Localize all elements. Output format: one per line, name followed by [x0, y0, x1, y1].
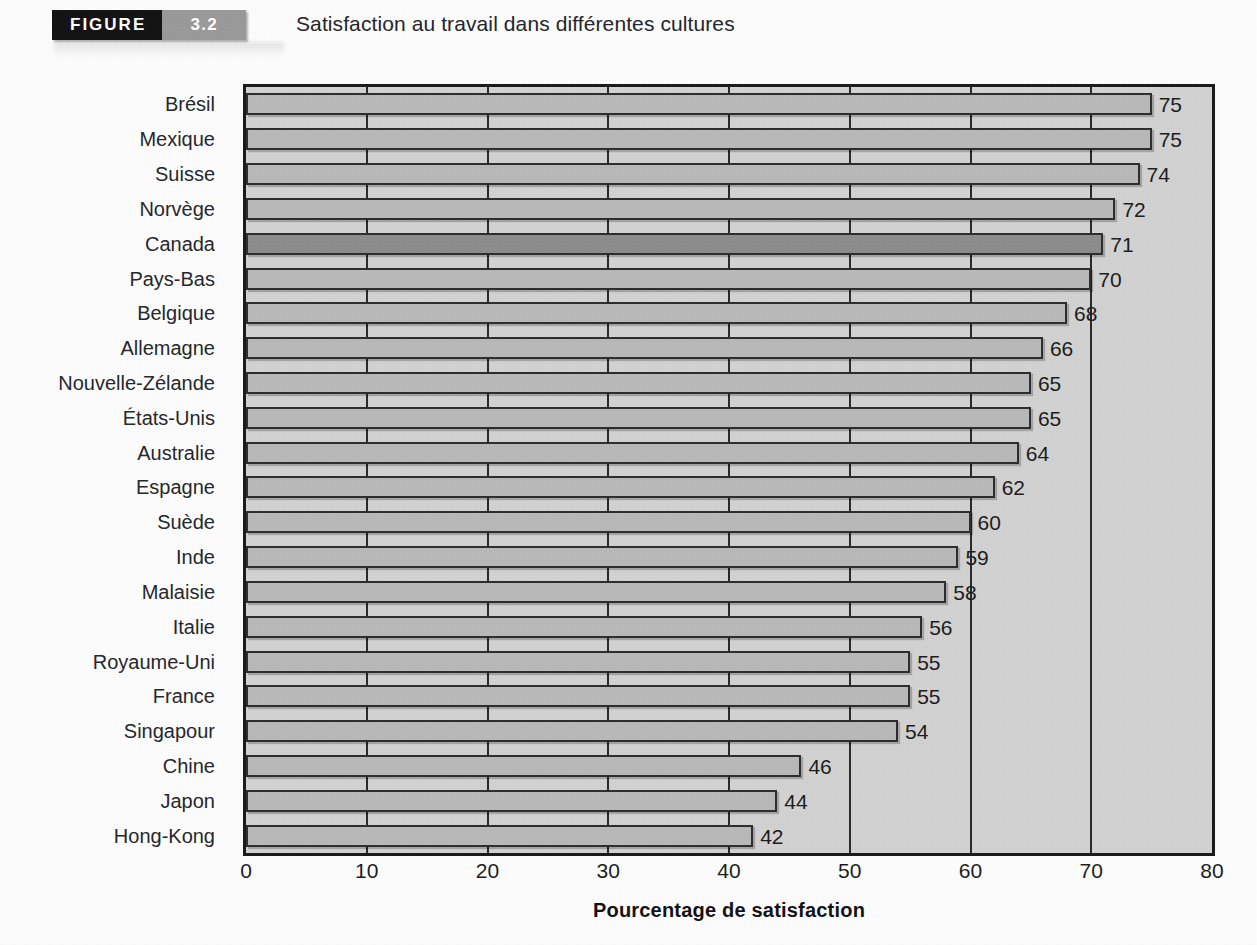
- bar-pays-bas: [246, 268, 1091, 290]
- bar-hong-kong: [246, 825, 753, 847]
- bar-row: 72: [246, 198, 1212, 220]
- bar-nouvelle-z-lande: [246, 372, 1031, 394]
- y-axis-label-hong-kong: Hong-Kong: [114, 826, 215, 846]
- bar-royaume-uni: [246, 651, 910, 673]
- bar-row: 58: [246, 581, 1212, 603]
- bar-mexique: [246, 128, 1152, 150]
- x-axis-tick-0: 0: [240, 860, 252, 881]
- bar-value-label: 65: [1038, 407, 1061, 428]
- x-axis-tick-70: 70: [1080, 860, 1103, 881]
- y-axis-label-royaume-uni: Royaume-Uni: [93, 652, 215, 672]
- bar-chart: 7575747271706866656564626059585655555446…: [243, 84, 1215, 856]
- bar-row: 70: [246, 268, 1212, 290]
- y-axis-label-singapour: Singapour: [124, 721, 215, 741]
- x-axis-tick-80: 80: [1200, 860, 1223, 881]
- bar-value-label: 62: [1002, 477, 1025, 498]
- bar-canada: [246, 233, 1103, 255]
- bar-allemagne: [246, 337, 1043, 359]
- figure-number-label: 3.2: [162, 10, 246, 40]
- bar-value-label: 59: [965, 547, 988, 568]
- y-axis-label-belgique: Belgique: [137, 303, 215, 323]
- bar-value-label: 72: [1122, 198, 1145, 219]
- y-axis-category-labels: BrésilMexiqueSuisseNorvègeCanadaPays-Bas…: [0, 84, 233, 856]
- x-axis-tick-20: 20: [476, 860, 499, 881]
- y-axis-label-australie: Australie: [137, 443, 215, 463]
- y-axis-label-chine: Chine: [163, 756, 215, 776]
- y-axis-label-france: France: [153, 686, 215, 706]
- bar-row: 55: [246, 651, 1212, 673]
- bar-row: 55: [246, 685, 1212, 707]
- bar-value-label: 75: [1159, 129, 1182, 150]
- x-axis-title: Pourcentage de satisfaction: [243, 899, 1215, 922]
- bar-row: 62: [246, 476, 1212, 498]
- bar-row: 71: [246, 233, 1212, 255]
- bar-norv-ge: [246, 198, 1115, 220]
- figure-word-label: FIGURE: [52, 10, 162, 40]
- y-axis-label-suisse: Suisse: [155, 164, 215, 184]
- bar-value-label: 70: [1098, 268, 1121, 289]
- bar-row: 59: [246, 546, 1212, 568]
- bar-value-label: 60: [978, 512, 1001, 533]
- bar-row: 68: [246, 302, 1212, 324]
- bar-row: 56: [246, 616, 1212, 638]
- figure-badge: FIGURE 3.2: [52, 10, 246, 40]
- bar-row: 65: [246, 407, 1212, 429]
- bar-malaisie: [246, 581, 946, 603]
- bar-row: 54: [246, 720, 1212, 742]
- bar-france: [246, 685, 910, 707]
- x-axis-tick-50: 50: [838, 860, 861, 881]
- bar-value-label: 71: [1110, 233, 1133, 254]
- bar-inde: [246, 546, 958, 568]
- y-axis-label-su-de: Suède: [157, 512, 215, 532]
- bar-su-de: [246, 511, 971, 533]
- y-axis-label-norv-ge: Norvège: [139, 199, 215, 219]
- bar-value-label: 58: [953, 581, 976, 602]
- bar-row: 60: [246, 511, 1212, 533]
- bar-australie: [246, 442, 1019, 464]
- y-axis-label-pays-bas: Pays-Bas: [129, 269, 215, 289]
- bar-value-label: 46: [808, 755, 831, 776]
- y-axis-label-italie: Italie: [173, 617, 215, 637]
- y-axis-label-nouvelle-z-lande: Nouvelle-Zélande: [58, 373, 215, 393]
- y-axis-label-malaisie: Malaisie: [142, 582, 215, 602]
- bar-chine: [246, 755, 801, 777]
- y-axis-label-allemagne: Allemagne: [120, 338, 215, 358]
- bar-row: 44: [246, 790, 1212, 812]
- bar-singapour: [246, 720, 898, 742]
- bar-japon: [246, 790, 777, 812]
- bar-value-label: 42: [760, 825, 783, 846]
- bar--tats-unis: [246, 407, 1031, 429]
- bar-value-label: 55: [917, 651, 940, 672]
- bar-value-label: 44: [784, 790, 807, 811]
- y-axis-label-br-sil: Brésil: [165, 94, 215, 114]
- badge-shadow: [54, 42, 284, 58]
- bar-value-label: 75: [1159, 94, 1182, 115]
- bar-suisse: [246, 163, 1140, 185]
- x-axis-tick-40: 40: [717, 860, 740, 881]
- x-axis-tick-30: 30: [597, 860, 620, 881]
- bar-value-label: 65: [1038, 372, 1061, 393]
- bar-value-label: 54: [905, 721, 928, 742]
- bar-row: 75: [246, 93, 1212, 115]
- bar-italie: [246, 616, 922, 638]
- figure-title: Satisfaction au travail dans différentes…: [296, 12, 735, 36]
- bar-espagne: [246, 476, 995, 498]
- y-axis-label-inde: Inde: [176, 547, 215, 567]
- y-axis-label-espagne: Espagne: [136, 477, 215, 497]
- bar-row: 46: [246, 755, 1212, 777]
- x-axis-tick-10: 10: [355, 860, 378, 881]
- bar-br-sil: [246, 93, 1152, 115]
- bar-row: 42: [246, 825, 1212, 847]
- y-axis-label-canada: Canada: [145, 234, 215, 254]
- x-axis-tick-labels: 01020304050607080: [0, 860, 1257, 894]
- bar-row: 66: [246, 337, 1212, 359]
- bar-row: 74: [246, 163, 1212, 185]
- bar-belgique: [246, 302, 1067, 324]
- x-axis-tick-60: 60: [959, 860, 982, 881]
- bar-value-label: 55: [917, 686, 940, 707]
- bar-row: 65: [246, 372, 1212, 394]
- bar-row: 64: [246, 442, 1212, 464]
- y-axis-label-mexique: Mexique: [139, 129, 215, 149]
- figure-header: FIGURE 3.2 Satisfaction au travail dans …: [0, 0, 1257, 62]
- bar-value-label: 74: [1147, 164, 1170, 185]
